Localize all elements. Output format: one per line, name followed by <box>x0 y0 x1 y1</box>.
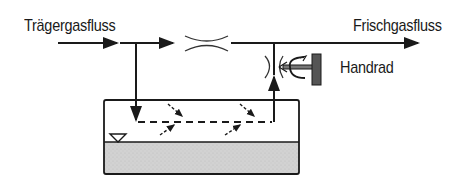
handwheel-label: Handrad <box>340 58 394 78</box>
handwheel[interactable] <box>279 54 321 85</box>
carrier-gas-flow-label: Trägergasfluss <box>24 16 115 36</box>
vaporizer-chamber <box>104 100 299 174</box>
bypass-throttle <box>185 36 228 51</box>
liquid-level-marker <box>110 134 126 142</box>
vapor-arrows <box>160 104 254 135</box>
fresh-gas-flow-label: Frischgasfluss <box>353 16 442 36</box>
